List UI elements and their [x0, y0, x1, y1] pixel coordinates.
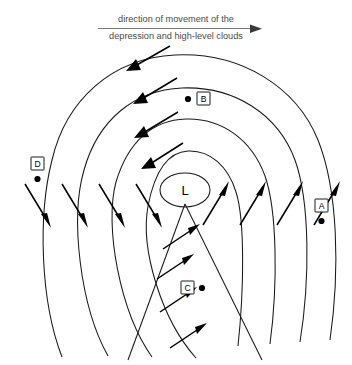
isobar-contour-3: [112, 119, 275, 357]
low-pressure-centre: L: [160, 173, 210, 207]
labelled-point-d[interactable]: D: [31, 157, 44, 182]
wind-arrow-sector-4: [170, 323, 207, 348]
labelled-point-c[interactable]: C: [181, 281, 205, 294]
wind-arrow-right-2: [240, 181, 266, 225]
wind-arrow-right-3: [277, 181, 303, 225]
wind-arrow-sector-1: [163, 224, 200, 249]
point-b-label: B: [201, 94, 207, 104]
wind-arrow-right-1: [203, 181, 229, 225]
wind-arrow-left-4: [136, 184, 162, 228]
labelled-point-b[interactable]: B: [185, 92, 210, 105]
point-a-dot: [318, 218, 324, 224]
point-b-dot: [185, 96, 191, 102]
wind-arrow-top-4: [141, 143, 183, 169]
point-a-label: A: [319, 201, 325, 211]
caption-line-1: direction of movement of the: [118, 14, 234, 24]
wind-arrow-top-1: [126, 46, 170, 71]
caption-arrow-head-icon: [250, 25, 262, 34]
point-c-label: C: [184, 283, 190, 293]
point-d-label: D: [34, 159, 40, 169]
diagram-canvas: direction of movement of the depression …: [0, 0, 352, 365]
wind-arrow-left-2: [62, 184, 88, 228]
wind-arrow-top-2: [133, 78, 177, 104]
caption-group: direction of movement of the depression …: [98, 14, 262, 41]
wind-arrow-left-1: [25, 184, 51, 228]
caption-line-2: depression and high-level clouds: [109, 31, 243, 41]
point-d-dot: [34, 176, 40, 182]
front-line-left: [128, 204, 185, 360]
isobar-contour-4: [146, 151, 242, 358]
weather-depression-diagram: direction of movement of the depression …: [0, 0, 352, 365]
centre-label-L: L: [181, 183, 188, 198]
point-c-dot: [199, 285, 205, 291]
wind-arrow-top-3: [134, 112, 178, 138]
